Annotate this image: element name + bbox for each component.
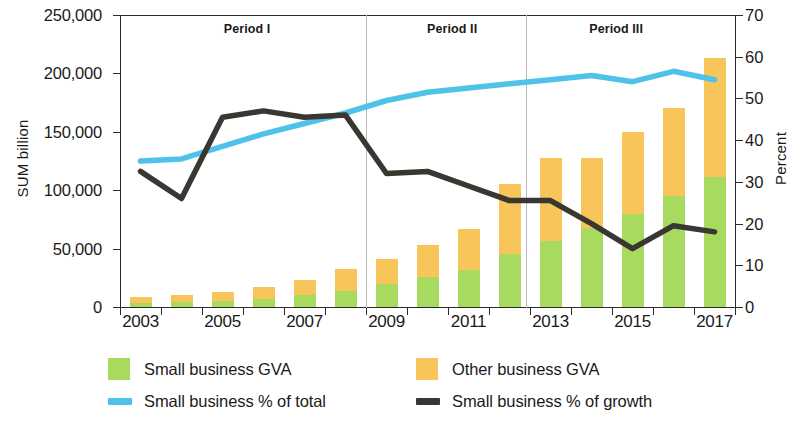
bar-stack[interactable] <box>130 297 152 307</box>
bar-segment-other-business-gva[interactable] <box>376 259 398 285</box>
x-axis-tick-mark <box>735 307 736 315</box>
bar-stack[interactable] <box>581 158 603 308</box>
x-axis-tick-label: 2011 <box>451 312 486 332</box>
legend-item[interactable]: Small business GVA <box>108 358 291 380</box>
bar-stack[interactable] <box>335 269 357 307</box>
bar-segment-other-business-gva[interactable] <box>212 292 234 301</box>
bar-segment-other-business-gva[interactable] <box>458 229 480 270</box>
x-axis-tick-label: 2009 <box>368 312 405 332</box>
legend-item[interactable]: Other business GVA <box>416 358 599 380</box>
bar-segment-small-business-gva[interactable] <box>581 228 603 307</box>
legend-line-swatch-icon <box>416 398 440 405</box>
bar-stack[interactable] <box>253 287 275 307</box>
y-axis-right-tick-mark <box>735 307 743 308</box>
y-axis-right-title: Percent <box>772 89 789 229</box>
bar-stack[interactable] <box>540 158 562 308</box>
y-axis-left-tick-label: 0 <box>16 298 102 317</box>
chart-legend: Small business GVAOther business GVASmal… <box>108 358 768 420</box>
x-axis-tick-label: 2017 <box>696 312 733 332</box>
x-axis-tick-mark <box>284 307 285 315</box>
bar-segment-other-business-gva[interactable] <box>253 287 275 299</box>
bar-segment-small-business-gva[interactable] <box>704 177 726 307</box>
y-axis-left-tick-label: 200,000 <box>16 64 102 83</box>
bar-segment-other-business-gva[interactable] <box>417 245 439 278</box>
bar-segment-other-business-gva[interactable] <box>622 132 644 214</box>
bar-segment-other-business-gva[interactable] <box>294 280 316 296</box>
x-axis-tick-label: 2015 <box>614 312 651 332</box>
bar-segment-small-business-gva[interactable] <box>171 302 193 307</box>
y-axis-left-tick-mark <box>113 190 121 191</box>
bar-segment-small-business-gva[interactable] <box>540 241 562 307</box>
y-axis-left-tick-label: 50,000 <box>16 239 102 258</box>
bar-segment-small-business-gva[interactable] <box>376 284 398 307</box>
y-axis-right-tick-mark <box>735 224 743 225</box>
bar-segment-small-business-gva[interactable] <box>499 254 521 307</box>
bar-segment-other-business-gva[interactable] <box>581 158 603 229</box>
x-axis-tick-mark <box>612 307 613 315</box>
bar-segment-small-business-gva[interactable] <box>622 214 644 307</box>
bar-segment-other-business-gva[interactable] <box>335 269 357 291</box>
y-axis-right-tick-label: 40 <box>745 131 795 150</box>
x-axis-tick-mark <box>653 307 654 315</box>
y-axis-right-tick-mark <box>735 98 743 99</box>
y-axis-right-line <box>735 15 736 308</box>
y-axis-left-title: SUM billion <box>14 89 31 229</box>
bar-stack[interactable] <box>663 108 685 307</box>
bar-segment-small-business-gva[interactable] <box>212 301 234 307</box>
x-axis-tick-mark <box>325 307 326 315</box>
x-axis-tick-mark <box>694 307 695 315</box>
y-axis-right-tick-label: 60 <box>745 47 795 66</box>
legend-item[interactable]: Small business % of growth <box>416 392 652 411</box>
legend-item[interactable]: Small business % of total <box>108 392 326 411</box>
bar-stack[interactable] <box>704 58 726 307</box>
legend-item-label: Small business % of growth <box>452 392 652 411</box>
bar-stack[interactable] <box>499 184 521 307</box>
bar-segment-other-business-gva[interactable] <box>663 108 685 196</box>
period-label: Period I <box>224 22 271 36</box>
bar-stack[interactable] <box>417 245 439 307</box>
bar-segment-small-business-gva[interactable] <box>663 196 685 307</box>
bar-stack[interactable] <box>212 292 234 307</box>
x-axis-tick-label: 2013 <box>532 312 569 332</box>
bar-segment-other-business-gva[interactable] <box>499 184 521 254</box>
bar-segment-small-business-gva[interactable] <box>417 277 439 307</box>
x-axis-tick-mark <box>202 307 203 315</box>
y-axis-left-tick-mark <box>113 15 121 16</box>
period-divider-line <box>366 15 367 308</box>
bar-segment-other-business-gva[interactable] <box>540 158 562 242</box>
bar-segment-other-business-gva[interactable] <box>171 295 193 302</box>
bar-stack[interactable] <box>171 295 193 307</box>
y-axis-right-tick-mark <box>735 140 743 141</box>
bar-stack[interactable] <box>294 280 316 307</box>
x-axis-tick-mark <box>120 307 121 315</box>
bar-segment-small-business-gva[interactable] <box>294 295 316 307</box>
legend-item-label: Small business GVA <box>144 360 291 379</box>
bar-segment-small-business-gva[interactable] <box>253 299 275 307</box>
period-label: Period III <box>589 22 643 36</box>
legend-color-swatch-icon <box>108 358 130 380</box>
x-axis-tick-mark <box>366 307 367 315</box>
legend-color-swatch-icon <box>416 358 438 380</box>
x-axis-tick-mark <box>161 307 162 315</box>
period-divider-line <box>526 15 527 308</box>
legend-item-label: Small business % of total <box>144 392 326 411</box>
bar-stack[interactable] <box>458 229 480 307</box>
period-label: Period II <box>427 22 477 36</box>
y-axis-left-tick-label: 150,000 <box>16 122 102 141</box>
x-axis-tick-mark <box>407 307 408 315</box>
bar-segment-small-business-gva[interactable] <box>130 303 152 307</box>
bar-segment-other-business-gva[interactable] <box>704 58 726 177</box>
bar-segment-small-business-gva[interactable] <box>335 291 357 307</box>
bar-segment-small-business-gva[interactable] <box>458 270 480 307</box>
x-axis-tick-label: 2007 <box>286 312 323 332</box>
chart-figure: SUM billion Percent 250,000200,000150,00… <box>0 0 800 424</box>
x-axis-tick-label: 2003 <box>122 312 159 332</box>
y-axis-right-tick-mark <box>735 15 743 16</box>
legend-item-label: Other business GVA <box>452 360 599 379</box>
y-axis-right-tick-label: 30 <box>745 172 795 191</box>
y-axis-right-tick-label: 50 <box>745 89 795 108</box>
x-axis-tick-mark <box>489 307 490 315</box>
y-axis-right-tick-mark <box>735 57 743 58</box>
bar-stack[interactable] <box>376 259 398 307</box>
bar-stack[interactable] <box>622 132 644 307</box>
